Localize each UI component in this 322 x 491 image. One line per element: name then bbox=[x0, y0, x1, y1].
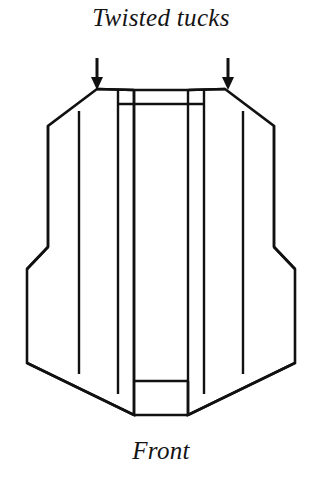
garment-pattern-figure: Twisted tucks bbox=[0, 0, 322, 491]
panel-seam-lines bbox=[48, 90, 274, 415]
tuck-arrow-group bbox=[91, 58, 234, 90]
left-tuck-arrow bbox=[91, 58, 103, 90]
right-armhole-notch bbox=[274, 247, 295, 269]
armhole-notches bbox=[27, 247, 295, 269]
horizontal-seam-lines bbox=[118, 104, 204, 381]
front-label: Front bbox=[0, 437, 322, 465]
hem-edges bbox=[27, 363, 295, 415]
bodice-outline bbox=[27, 89, 295, 415]
right-tuck-arrow bbox=[222, 58, 234, 90]
pattern-drawing bbox=[0, 0, 322, 491]
left-armhole-notch bbox=[27, 247, 48, 269]
